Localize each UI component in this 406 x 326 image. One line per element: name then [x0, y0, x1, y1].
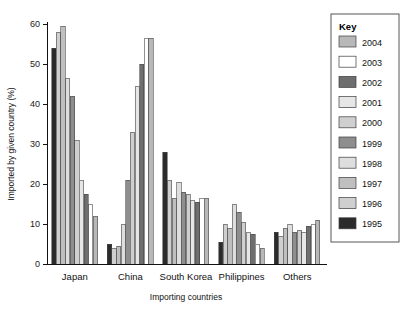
- bar-group-others: [274, 220, 320, 264]
- bar[interactable]: [255, 244, 259, 264]
- x-category-label: Others: [283, 271, 312, 282]
- legend-label-2002: 2002: [362, 78, 382, 88]
- bar[interactable]: [251, 234, 255, 264]
- bar[interactable]: [140, 64, 144, 264]
- bar[interactable]: [144, 38, 148, 264]
- chart-legend[interactable]: Key2004200320022001200019991998199719961…: [331, 14, 399, 242]
- bar[interactable]: [195, 202, 199, 264]
- bar[interactable]: [297, 230, 301, 264]
- y-tick-label: 10: [30, 219, 40, 229]
- legend-label-1995: 1995: [362, 219, 382, 229]
- y-tick-label: 40: [30, 99, 40, 109]
- bar[interactable]: [204, 198, 208, 264]
- bar[interactable]: [316, 220, 320, 264]
- bar[interactable]: [219, 242, 223, 264]
- bar[interactable]: [232, 204, 236, 264]
- y-tick-label: 30: [30, 139, 40, 149]
- bar[interactable]: [168, 180, 172, 264]
- y-tick-label: 20: [30, 179, 40, 189]
- bar[interactable]: [107, 244, 111, 264]
- legend-label-2000: 2000: [362, 118, 382, 128]
- bar[interactable]: [302, 232, 306, 264]
- legend-label-2003: 2003: [362, 58, 382, 68]
- x-category-label: Philippines: [219, 271, 265, 282]
- x-category-label: China: [118, 271, 144, 282]
- bar[interactable]: [56, 32, 60, 264]
- y-tick-label: 50: [30, 59, 40, 69]
- bar[interactable]: [75, 140, 79, 264]
- legend-title: Key: [339, 21, 357, 32]
- y-tick-label: 0: [35, 259, 40, 269]
- bar[interactable]: [112, 248, 116, 264]
- legend-swatch-2001: [339, 97, 356, 108]
- legend-label-1998: 1998: [362, 159, 382, 169]
- bar[interactable]: [200, 198, 204, 264]
- legend-label-2004: 2004: [362, 38, 382, 48]
- bar[interactable]: [186, 194, 190, 264]
- y-axis-title: Imported by given country (%): [6, 87, 16, 201]
- bar-group-japan: [52, 26, 98, 264]
- bar[interactable]: [172, 198, 176, 264]
- bar[interactable]: [274, 232, 278, 264]
- bar[interactable]: [279, 236, 283, 264]
- bar[interactable]: [79, 180, 83, 264]
- bar[interactable]: [149, 38, 153, 264]
- legend-swatch-2000: [339, 117, 356, 128]
- legend-swatch-2004: [339, 36, 356, 47]
- bar[interactable]: [121, 224, 125, 264]
- legend-swatch-2002: [339, 76, 356, 87]
- bar[interactable]: [84, 194, 88, 264]
- bar[interactable]: [89, 204, 93, 264]
- bar[interactable]: [246, 232, 250, 264]
- bar[interactable]: [228, 228, 232, 264]
- legend-label-2001: 2001: [362, 98, 382, 108]
- legend-swatch-1998: [339, 157, 356, 168]
- legend-label-1999: 1999: [362, 139, 382, 149]
- bar[interactable]: [130, 132, 134, 264]
- bar[interactable]: [177, 182, 181, 264]
- x-axis-title: Importing countries: [150, 292, 222, 302]
- bar[interactable]: [191, 200, 195, 264]
- legend-label-1997: 1997: [362, 179, 382, 189]
- x-category-label: Japan: [62, 271, 88, 282]
- bar[interactable]: [70, 96, 74, 264]
- bar[interactable]: [61, 26, 65, 264]
- bar[interactable]: [311, 224, 315, 264]
- legend-swatch-1999: [339, 137, 356, 148]
- bar[interactable]: [117, 246, 121, 264]
- legend-swatch-2003: [339, 56, 356, 67]
- bar[interactable]: [93, 216, 97, 264]
- x-category-label: South Korea: [160, 271, 214, 282]
- bar-chart: 0102030405060JapanChinaSouth KoreaPhilip…: [0, 0, 406, 326]
- chart-svg: 0102030405060JapanChinaSouth KoreaPhilip…: [0, 0, 406, 326]
- bar[interactable]: [242, 222, 246, 264]
- bar-group-philippines: [219, 204, 265, 264]
- bar[interactable]: [237, 212, 241, 264]
- legend-swatch-1995: [339, 218, 356, 229]
- bar[interactable]: [306, 226, 310, 264]
- bar[interactable]: [181, 192, 185, 264]
- legend-label-1996: 1996: [362, 199, 382, 209]
- bar[interactable]: [260, 248, 264, 264]
- bar[interactable]: [283, 228, 287, 264]
- bar[interactable]: [163, 152, 167, 264]
- bar[interactable]: [66, 78, 70, 264]
- bar-group-south-korea: [163, 152, 209, 264]
- bar[interactable]: [288, 224, 292, 264]
- bar[interactable]: [126, 180, 130, 264]
- legend-swatch-1997: [339, 177, 356, 188]
- bar[interactable]: [223, 224, 227, 264]
- bar[interactable]: [293, 232, 297, 264]
- y-tick-label: 60: [30, 19, 40, 29]
- legend-swatch-1996: [339, 198, 356, 209]
- bar[interactable]: [52, 48, 56, 264]
- bar[interactable]: [135, 86, 139, 264]
- plot-area: [52, 26, 320, 264]
- bar-group-china: [107, 38, 153, 264]
